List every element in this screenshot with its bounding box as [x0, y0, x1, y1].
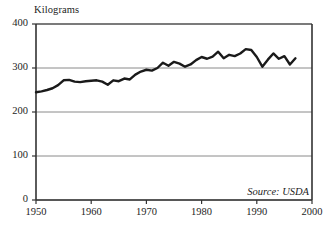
y-tick-label-200: 200	[0, 105, 28, 116]
gridlines	[36, 24, 312, 200]
x-tick-label-1950: 1950	[16, 206, 56, 217]
x-tick-label-2000: 2000	[292, 206, 331, 217]
chart-container: Kilograms 0100200300400 1950196019701980…	[0, 0, 331, 225]
y-tick-label-300: 300	[0, 61, 28, 72]
x-tick-label-1960: 1960	[71, 206, 111, 217]
x-tick-label-1990: 1990	[237, 206, 277, 217]
data-line-series-0	[36, 49, 295, 92]
y-tick-label-400: 400	[0, 17, 28, 28]
y-tick-label-100: 100	[0, 149, 28, 160]
y-tick-label-0: 0	[0, 193, 28, 204]
x-tick-label-1970: 1970	[126, 206, 166, 217]
source-annotation: Source: USDA	[247, 186, 309, 197]
x-tick-label-1980: 1980	[182, 206, 222, 217]
